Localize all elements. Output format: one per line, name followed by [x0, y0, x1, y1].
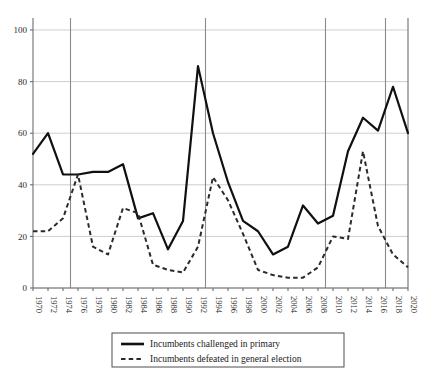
x-tick-label-1990: 1990 [184, 296, 194, 313]
y-tick-label-100: 100 [14, 25, 28, 35]
x-tick-label-2012: 2012 [349, 296, 359, 313]
x-tick-label-1996: 1996 [229, 296, 239, 313]
chart-container: 100806040200 197019721974197619781980198… [0, 0, 427, 378]
x-axis-tick-labels: 1970197219741976197819801982198419861988… [33, 288, 419, 314]
x-tick-label-2014: 2014 [364, 296, 374, 314]
chart-legend: Incumbents challenged in primaryIncumben… [112, 333, 344, 367]
x-tick-label-2016: 2016 [379, 296, 389, 313]
x-tick-label-1994: 1994 [214, 296, 224, 314]
legend-label-1: Incumbents defeated in general election [150, 354, 302, 364]
vertical-marker-lines-group [71, 18, 386, 288]
x-tick-label-1974: 1974 [64, 296, 74, 314]
y-tick-label-40: 40 [18, 180, 28, 190]
x-tick-label-1982: 1982 [124, 296, 134, 313]
x-tick-label-1980: 1980 [109, 296, 119, 313]
x-tick-label-2020: 2020 [409, 296, 419, 313]
x-tick-label-1970: 1970 [34, 296, 44, 313]
data-series-group [33, 66, 408, 278]
x-tick-label-2006: 2006 [304, 296, 314, 313]
x-tick-label-1998: 1998 [244, 296, 254, 313]
x-tick-label-1978: 1978 [94, 296, 104, 313]
x-tick-label-1992: 1992 [199, 296, 209, 313]
x-tick-label-2004: 2004 [289, 296, 299, 314]
x-tick-label-2018: 2018 [394, 296, 404, 313]
y-tick-label-20: 20 [18, 232, 28, 242]
axes-group [33, 18, 408, 288]
x-tick-label-1984: 1984 [139, 296, 149, 314]
x-tick-label-1976: 1976 [79, 296, 89, 313]
x-tick-label-2000: 2000 [259, 296, 269, 313]
x-tick-label-2002: 2002 [274, 296, 284, 313]
y-tick-label-80: 80 [18, 77, 28, 87]
y-tick-label-0: 0 [23, 283, 28, 293]
x-tick-label-1986: 1986 [154, 296, 164, 313]
x-tick-label-2008: 2008 [319, 296, 329, 313]
x-tick-label-1972: 1972 [49, 296, 59, 313]
y-axis-tick-labels: 100806040200 [14, 25, 34, 293]
y-tick-label-60: 60 [18, 128, 28, 138]
x-tick-label-1988: 1988 [169, 296, 179, 313]
line-chart: 100806040200 197019721974197619781980198… [0, 0, 427, 378]
x-tick-label-2010: 2010 [334, 296, 344, 313]
legend-label-0: Incumbents challenged in primary [150, 339, 280, 349]
series-line-defeated-general [33, 151, 408, 277]
